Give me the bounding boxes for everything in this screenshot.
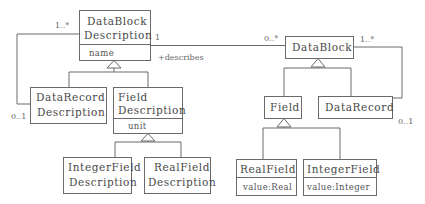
generalization-line-right-bottom [263, 128, 340, 159]
generalization-line-left-top [69, 72, 148, 87]
class-name-line1: DataRecord [36, 91, 105, 103]
class-name-line2: Description [84, 29, 152, 41]
class-name-line1: IntegerField [68, 161, 141, 173]
class-attribute: unit [128, 121, 147, 131]
class-datarecord[interactable]: DataRecord [319, 97, 395, 119]
class-datablock[interactable]: DataBlock [286, 37, 354, 59]
class-attribute: value:Integer [306, 182, 371, 192]
class-datarecord-description[interactable]: DataRecord Description [31, 88, 107, 124]
class-name: RealField [240, 163, 296, 175]
class-name-line2: Description [69, 176, 137, 188]
generalization-line-right-top [284, 68, 351, 96]
class-realfield-description[interactable]: RealField Description [145, 158, 217, 194]
class-name: DataBlock [292, 41, 352, 53]
generalization-arrow-icon [311, 59, 325, 68]
generalization-arrow-icon [107, 61, 121, 69]
generalization-line-left-bottom [115, 142, 181, 157]
generalization-arrow-icon [277, 119, 291, 128]
class-name-line1: Field [118, 91, 148, 103]
left-mult-bottom: 0..1 [11, 112, 26, 121]
generalization-arrow-icon [141, 134, 155, 142]
class-integerfield[interactable]: IntegerField value:Integer [304, 160, 381, 196]
association-role-label: +describes [158, 53, 204, 62]
association-target-mult: 0..* [264, 34, 278, 43]
class-name-line2: Description [148, 176, 216, 188]
left-mult-top: 1..* [55, 21, 69, 30]
class-attribute: value:Real [242, 182, 292, 192]
class-name-line1: RealField [154, 161, 210, 173]
right-mult-bottom: 0..1 [398, 117, 413, 126]
class-name-line2: Description [118, 104, 186, 116]
class-attribute: name [89, 48, 114, 58]
class-name: DataRecord [325, 101, 394, 113]
uml-class-diagram: 1..* 0..1 DataBlock Description name Dat… [0, 0, 425, 204]
right-mult-top: 1..* [360, 35, 374, 44]
right-aggregation-line [353, 47, 402, 98]
class-name: IntegerField [307, 163, 380, 175]
class-datablock-description[interactable]: DataBlock Description name [80, 11, 153, 61]
class-name: Field [270, 101, 300, 113]
association-source-mult: 1 [155, 33, 160, 42]
class-realfield[interactable]: RealField value:Real [237, 160, 297, 196]
class-name-line2: Description [37, 106, 105, 118]
class-field[interactable]: Field [265, 97, 302, 119]
class-name-line1: DataBlock [87, 15, 147, 27]
class-field-description[interactable]: Field Description unit [114, 88, 187, 134]
class-integerfield-description[interactable]: IntegerField Description [64, 158, 142, 194]
